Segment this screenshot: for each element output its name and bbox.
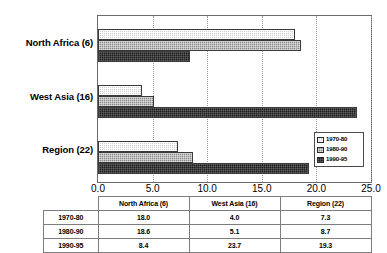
bar-1970-80-West Asia (16): [98, 85, 142, 96]
table-cell: 7.3: [280, 211, 371, 225]
table-cell: 19.3: [280, 239, 371, 253]
table-cell: 8.4: [98, 239, 189, 253]
table-column-header-north-africa: North Africa (6): [98, 197, 189, 211]
legend-label-1970-80: 1970-80: [326, 136, 347, 143]
chart-legend: 1970-80 1980-90 1990-95: [314, 132, 364, 167]
bar-1980-90-North Africa (6): [98, 40, 301, 51]
bar-1970-80-North Africa (6): [98, 29, 295, 40]
legend-label-1980-90: 1980-90: [326, 146, 347, 153]
data-table: North Africa (6) West Asia (16) Region (…: [43, 196, 372, 253]
table-row: 1990-958.423.719.3: [44, 239, 372, 253]
plot-area: 1970-80 1980-90 1990-95: [97, 15, 372, 183]
table-column-header-region: Region (22): [280, 197, 371, 211]
bar-1970-80-Region (22): [98, 141, 178, 152]
table-cell: 4.0: [189, 211, 280, 225]
table-row-label: 1990-95: [44, 239, 99, 253]
legend-swatch-icon-1990-95: [317, 157, 324, 163]
table-row-label: 1970-80: [44, 211, 99, 225]
legend-item-1990-95: 1990-95: [317, 155, 361, 164]
legend-label-1990-95: 1990-95: [326, 156, 347, 163]
table-row: 1970-8018.04.07.3: [44, 211, 372, 225]
table-cell: 23.7: [189, 239, 280, 253]
bar-chart-figure: North Africa (6) West Asia (16) Region (…: [0, 0, 387, 253]
gridline: [371, 16, 372, 182]
x-tick-label: 20.0: [307, 183, 326, 194]
bar-1980-90-Region (22): [98, 152, 193, 163]
legend-item-1970-80: 1970-80: [317, 135, 361, 144]
bar-1980-90-West Asia (16): [98, 96, 154, 107]
bar-1990-95-North Africa (6): [98, 51, 190, 62]
table-cell: 18.6: [98, 225, 189, 239]
bar-1990-95-West Asia (16): [98, 107, 357, 118]
x-tick-label: 25.0: [361, 183, 380, 194]
table-cell: 18.0: [98, 211, 189, 225]
table-row-label: 1980-90: [44, 225, 99, 239]
category-label-west-asia: West Asia (16): [0, 91, 93, 102]
legend-swatch-icon-1980-90: [317, 147, 324, 153]
x-tick-label: 15.0: [252, 183, 271, 194]
table-row: 1980-9018.65.18.7: [44, 225, 372, 239]
table-cell: 8.7: [280, 225, 371, 239]
x-tick-label: 5.0: [146, 183, 160, 194]
table-corner-cell: [44, 197, 99, 211]
x-axis: 0.05.010.015.020.025.0: [97, 183, 372, 197]
table-cell: 5.1: [189, 225, 280, 239]
table-column-header-west-asia: West Asia (16): [189, 197, 280, 211]
category-label-region: Region (22): [0, 144, 93, 155]
category-label-north-africa: North Africa (6): [0, 37, 93, 48]
legend-item-1980-90: 1980-90: [317, 145, 361, 154]
x-tick-label: 10.0: [197, 183, 216, 194]
x-tick-label: 0.0: [91, 183, 105, 194]
legend-swatch-icon-1970-80: [317, 137, 324, 143]
bar-1990-95-Region (22): [98, 163, 309, 174]
table-body: 1970-8018.04.07.31980-9018.65.18.71990-9…: [44, 211, 372, 253]
table-header-row: North Africa (6) West Asia (16) Region (…: [44, 197, 372, 211]
